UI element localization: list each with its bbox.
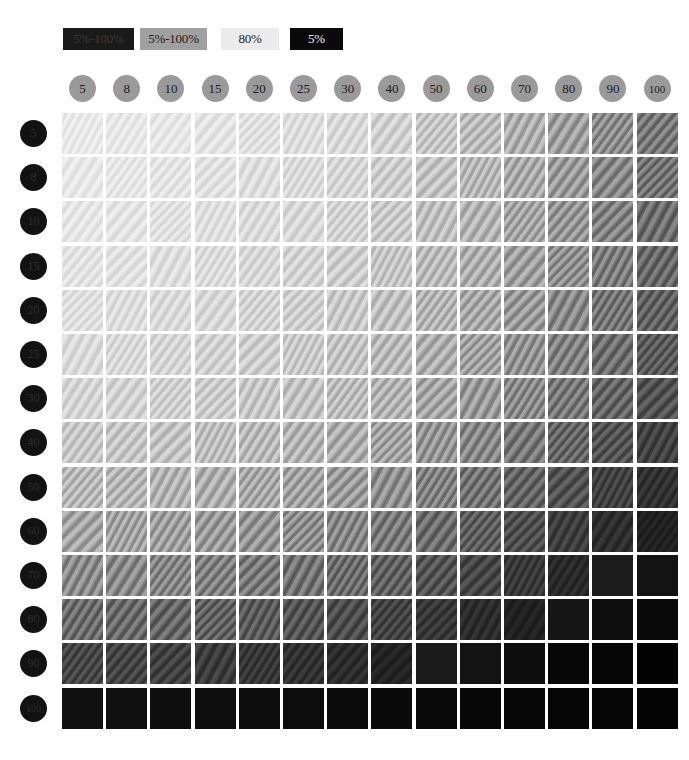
- patch-texture: [504, 378, 545, 419]
- patch-cell: [327, 201, 368, 242]
- patch-texture: [195, 555, 236, 596]
- patch-cell: [371, 378, 412, 419]
- patch-texture: [106, 467, 147, 508]
- patch-cell: [327, 422, 368, 463]
- patch-texture: [416, 113, 457, 154]
- patch-cell: [371, 555, 412, 596]
- patch-cell: [106, 113, 147, 154]
- patch-cell: [460, 201, 501, 242]
- patch-texture: [371, 290, 412, 331]
- patch-cell: [106, 290, 147, 331]
- patch-texture: [592, 334, 633, 375]
- patch-texture: [460, 422, 501, 463]
- patch-cell: [371, 643, 412, 684]
- patch-cell: [592, 599, 633, 640]
- patch-cell: [504, 555, 545, 596]
- patch-cell: [592, 422, 633, 463]
- patch-cell: [150, 555, 191, 596]
- patch-texture: [239, 643, 280, 684]
- patch-texture: [150, 643, 191, 684]
- patch-cell: [62, 246, 103, 287]
- patch-cell: [416, 246, 457, 287]
- patch-texture: [504, 422, 545, 463]
- patch-cell: [283, 334, 324, 375]
- patch-cell: [150, 467, 191, 508]
- patch-cell: [371, 246, 412, 287]
- patch-cell: [106, 378, 147, 419]
- patch-cell: [504, 201, 545, 242]
- patch-texture: [150, 246, 191, 287]
- patch-cell: [548, 467, 589, 508]
- patch-cell: [460, 688, 501, 729]
- patch-cell: [504, 246, 545, 287]
- patch-cell: [283, 555, 324, 596]
- patch-texture: [504, 157, 545, 198]
- patch-cell: [548, 201, 589, 242]
- patch-cell: [106, 422, 147, 463]
- patch-texture: [592, 422, 633, 463]
- patch-texture: [592, 511, 633, 552]
- patch-texture: [283, 246, 324, 287]
- patch-cell: [62, 467, 103, 508]
- patch-cell: [637, 467, 678, 508]
- patch-texture: [150, 201, 191, 242]
- patch-texture: [195, 201, 236, 242]
- patch-cell: [327, 290, 368, 331]
- patch-texture: [416, 378, 457, 419]
- patch-cell: [327, 157, 368, 198]
- patch-cell: [637, 334, 678, 375]
- patch-cell: [548, 290, 589, 331]
- patch-cell: [239, 113, 280, 154]
- patch-cell: [371, 290, 412, 331]
- patch-cell: [460, 113, 501, 154]
- patch-cell: [62, 688, 103, 729]
- patch-cell: [239, 246, 280, 287]
- patch-cell: [504, 511, 545, 552]
- patch-texture: [239, 511, 280, 552]
- patch-texture: [548, 467, 589, 508]
- patch-texture: [327, 113, 368, 154]
- patch-cell: [637, 290, 678, 331]
- patch-cell: [106, 688, 147, 729]
- patch-texture: [283, 511, 324, 552]
- patch-texture: [637, 113, 678, 154]
- patch-cell: [460, 290, 501, 331]
- patch-cell: [195, 599, 236, 640]
- patch-texture: [592, 157, 633, 198]
- patch-texture: [460, 113, 501, 154]
- patch-texture: [62, 555, 103, 596]
- patch-cell: [106, 467, 147, 508]
- patch-cell: [195, 688, 236, 729]
- patch-cell: [416, 643, 457, 684]
- patch-texture: [460, 378, 501, 419]
- patch-cell: [416, 113, 457, 154]
- patch-texture: [239, 334, 280, 375]
- patch-texture: [416, 246, 457, 287]
- patch-cell: [548, 246, 589, 287]
- patch-texture: [150, 555, 191, 596]
- patch-texture: [283, 157, 324, 198]
- patch-texture: [371, 643, 412, 684]
- patch-cell: [195, 113, 236, 154]
- patch-cell: [283, 511, 324, 552]
- patch-texture: [416, 467, 457, 508]
- patch-texture: [371, 201, 412, 242]
- patch-cell: [239, 290, 280, 331]
- patch-texture: [416, 334, 457, 375]
- patch-texture: [106, 555, 147, 596]
- patch-texture: [371, 157, 412, 198]
- patch-cell: [239, 422, 280, 463]
- patch-cell: [416, 688, 457, 729]
- patch-texture: [150, 467, 191, 508]
- patch-texture: [371, 378, 412, 419]
- patch-cell: [548, 378, 589, 419]
- patch-cell: [592, 643, 633, 684]
- patch-cell: [195, 201, 236, 242]
- patch-texture: [371, 113, 412, 154]
- patch-texture: [106, 290, 147, 331]
- patch-texture: [327, 201, 368, 242]
- patch-cell: [150, 246, 191, 287]
- patch-cell: [637, 157, 678, 198]
- patch-texture: [195, 467, 236, 508]
- patch-texture: [106, 246, 147, 287]
